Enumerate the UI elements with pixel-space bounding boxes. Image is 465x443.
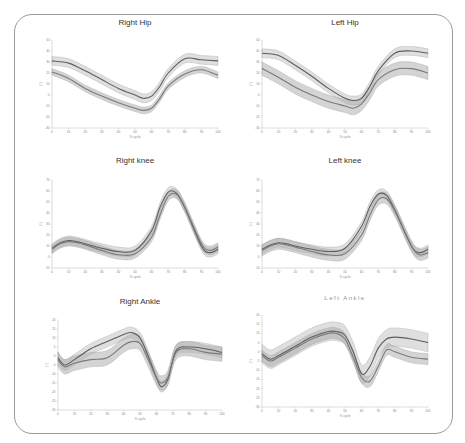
x-tick-label: 50 bbox=[133, 270, 137, 274]
x-tick-label: 30 bbox=[100, 270, 104, 274]
y-axis-label: (°) bbox=[249, 82, 253, 85]
x-tick-label: 60 bbox=[155, 412, 159, 416]
x-tick-label: 100 bbox=[215, 270, 221, 274]
x-tick-label: 70 bbox=[376, 409, 380, 413]
subplot-right-hip: Right Hip50403020100-10-20-3001020304050… bbox=[39, 18, 221, 139]
y-tick-label: 30 bbox=[46, 222, 50, 226]
x-tick-label: 90 bbox=[410, 409, 414, 413]
x-tick-label: 20 bbox=[293, 130, 297, 134]
x-tick-label: 70 bbox=[166, 130, 170, 134]
x-tick-label: 10 bbox=[277, 270, 281, 274]
sd-band bbox=[52, 66, 218, 113]
x-tick-label: 0 bbox=[51, 130, 53, 134]
y-tick-label: -10 bbox=[51, 372, 56, 376]
y-tick-label: 30 bbox=[256, 222, 260, 226]
y-tick-label: -10 bbox=[45, 266, 50, 270]
x-tick-label: 40 bbox=[327, 270, 331, 274]
x-tick-label: 80 bbox=[183, 130, 187, 134]
x-tick-label: 100 bbox=[425, 130, 431, 134]
x-tick-label: 50 bbox=[343, 409, 347, 413]
x-axis-label: % cycle bbox=[340, 275, 351, 279]
x-tick-label: 10 bbox=[277, 409, 281, 413]
x-axis-label: % cycle bbox=[340, 414, 351, 418]
subplot-right-ankle: Right Ankle20151050-5-10-15-20-25-300102… bbox=[45, 297, 225, 421]
y-tick-label: 10 bbox=[46, 244, 50, 248]
subplot-title: Left Ankle bbox=[324, 295, 365, 301]
y-tick-label: 10 bbox=[46, 82, 50, 86]
y-tick-label: -5 bbox=[257, 359, 260, 363]
x-tick-label: 60 bbox=[360, 409, 364, 413]
x-tick-label: 60 bbox=[150, 130, 154, 134]
x-tick-label: 70 bbox=[171, 412, 175, 416]
x-tick-label: 90 bbox=[200, 270, 204, 274]
y-tick-label: 70 bbox=[256, 178, 260, 182]
y-tick-label: 40 bbox=[46, 49, 50, 53]
y-tick-label: 0 bbox=[258, 93, 260, 97]
subplot-left-hip: Left Hip50403020100-10-20-30010203040506… bbox=[249, 18, 431, 139]
x-tick-label: 50 bbox=[343, 270, 347, 274]
y-axis-label: (°) bbox=[39, 82, 43, 85]
x-tick-label: 40 bbox=[327, 409, 331, 413]
y-tick-label: 30 bbox=[46, 60, 50, 64]
x-tick-label: 80 bbox=[187, 412, 191, 416]
y-tick-label: -30 bbox=[51, 408, 56, 412]
x-tick-label: 40 bbox=[117, 130, 121, 134]
x-tick-label: 30 bbox=[100, 130, 104, 134]
x-tick-label: 80 bbox=[393, 130, 397, 134]
x-tick-label: 20 bbox=[293, 270, 297, 274]
y-tick-label: 20 bbox=[46, 233, 50, 237]
y-tick-label: -10 bbox=[255, 104, 260, 108]
y-tick-label: -10 bbox=[45, 104, 50, 108]
x-tick-label: 40 bbox=[117, 270, 121, 274]
x-tick-label: 10 bbox=[73, 412, 77, 416]
y-tick-label: -30 bbox=[255, 126, 260, 130]
x-tick-label: 0 bbox=[261, 270, 263, 274]
y-tick-label: 15 bbox=[256, 322, 260, 326]
y-tick-label: -15 bbox=[255, 377, 260, 381]
x-tick-label: 60 bbox=[360, 270, 364, 274]
x-tick-label: 50 bbox=[343, 130, 347, 134]
y-tick-label: -10 bbox=[255, 266, 260, 270]
y-tick-label: 5 bbox=[54, 345, 56, 349]
x-tick-label: 40 bbox=[122, 412, 126, 416]
y-tick-label: 60 bbox=[256, 189, 260, 193]
y-tick-label: -30 bbox=[255, 405, 260, 409]
x-tick-label: 40 bbox=[327, 130, 331, 134]
x-tick-label: 70 bbox=[376, 270, 380, 274]
y-tick-label: -25 bbox=[51, 399, 56, 403]
y-tick-label: -20 bbox=[45, 115, 50, 119]
y-tick-label: 15 bbox=[52, 327, 56, 331]
y-tick-label: 10 bbox=[256, 82, 260, 86]
x-tick-label: 80 bbox=[393, 270, 397, 274]
x-tick-label: 80 bbox=[183, 270, 187, 274]
x-tick-label: 20 bbox=[83, 130, 87, 134]
x-tick-label: 100 bbox=[425, 270, 431, 274]
x-axis-label: % cycle bbox=[340, 135, 351, 139]
x-tick-label: 60 bbox=[360, 130, 364, 134]
sd-band bbox=[52, 189, 218, 260]
y-tick-label: 70 bbox=[46, 178, 50, 182]
y-tick-label: -15 bbox=[51, 381, 56, 385]
x-tick-label: 30 bbox=[310, 409, 314, 413]
y-tick-label: 5 bbox=[258, 341, 260, 345]
x-tick-label: 70 bbox=[166, 270, 170, 274]
y-tick-label: 0 bbox=[48, 255, 50, 259]
y-tick-label: 20 bbox=[256, 313, 260, 317]
y-axis-label: (°) bbox=[45, 363, 49, 366]
y-tick-label: 0 bbox=[258, 255, 260, 259]
y-tick-label: 0 bbox=[54, 354, 56, 358]
x-tick-label: 20 bbox=[89, 412, 93, 416]
x-tick-label: 30 bbox=[310, 130, 314, 134]
gait-kinematics-figure: Right Hip50403020100-10-20-3001020304050… bbox=[0, 0, 465, 443]
x-tick-label: 50 bbox=[133, 130, 137, 134]
subplot-left-ankle: Left Ankle20151050-5-10-15-20-25-3001020… bbox=[249, 295, 431, 418]
y-tick-label: 40 bbox=[256, 211, 260, 215]
x-tick-label: 60 bbox=[150, 270, 154, 274]
y-tick-label: 60 bbox=[46, 189, 50, 193]
y-tick-label: 40 bbox=[256, 49, 260, 53]
y-tick-label: -20 bbox=[51, 390, 56, 394]
subplot-right-knee: Right knee706050403020100-10010203040506… bbox=[39, 156, 221, 279]
x-tick-label: 10 bbox=[277, 130, 281, 134]
sd-band bbox=[262, 192, 428, 261]
x-tick-label: 0 bbox=[57, 412, 59, 416]
